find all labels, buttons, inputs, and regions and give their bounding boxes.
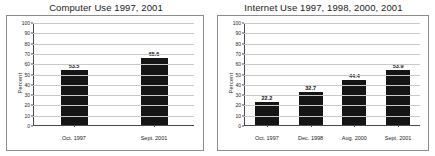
x-tick-label: Oct. 1997 (245, 135, 289, 141)
y-tick-mark (31, 115, 33, 116)
y-tick-label: 0 (238, 124, 241, 129)
y-tick-label: 90 (24, 31, 30, 36)
y-tick-label: 60 (24, 62, 30, 67)
y-tick-label: 50 (235, 72, 241, 77)
y-tick-label: 10 (24, 113, 30, 118)
y-tick-mark (242, 43, 244, 44)
gridline (244, 44, 420, 45)
gridline (244, 23, 420, 24)
y-tick-mark (242, 115, 244, 116)
gridline (244, 54, 420, 55)
y-tick-label: 20 (24, 103, 30, 108)
gridline (33, 44, 194, 45)
y-tick-label: 80 (24, 41, 30, 46)
y-tick-mark (31, 95, 33, 96)
x-axis-line (244, 125, 420, 126)
gridline (244, 85, 420, 86)
gridline (33, 95, 194, 96)
gridline (33, 64, 194, 65)
y-tick-mark (242, 64, 244, 65)
gridline (33, 54, 194, 55)
y-tick-label: 100 (233, 21, 241, 26)
x-tick-mark (267, 125, 268, 127)
gridline (33, 85, 194, 86)
y-tick-mark (242, 23, 244, 24)
y-tick-mark (31, 23, 33, 24)
x-tick-label: Dec. 1998 (289, 135, 333, 141)
gridline (33, 23, 194, 24)
gridline (244, 64, 420, 65)
y-axis-label-internet-use: Percent (228, 72, 234, 93)
plot-frame-computer-use: Percent 53.565.6 1009080706050403020100 … (6, 15, 204, 151)
y-tick-label: 80 (235, 41, 241, 46)
y-tick-label: 60 (235, 62, 241, 67)
axes-computer-use: 53.565.6 1009080706050403020100 (33, 23, 194, 126)
bar: 53.9 (386, 70, 410, 125)
y-tick-mark (242, 33, 244, 34)
y-tick-label: 40 (235, 82, 241, 87)
axes-internet-use: 22.232.744.453.9 1009080706050403020100 (244, 23, 420, 126)
chart-title-computer-use: Computer Use 1997, 2001 (0, 0, 212, 13)
x-axis-line (33, 125, 194, 126)
y-tick-label: 50 (24, 72, 30, 77)
y-axis-label-computer-use: Percent (17, 72, 23, 93)
x-tick-mark (74, 125, 75, 127)
y-tick-label: 40 (24, 82, 30, 87)
gridline (33, 105, 194, 106)
y-tick-mark (242, 74, 244, 75)
x-tick-label: Sept. 2001 (376, 135, 420, 141)
y-tick-label: 20 (235, 103, 241, 108)
y-tick-label: 10 (235, 113, 241, 118)
chart-pair-figure: Computer Use 1997, 2001 Percent 53.565.6… (0, 0, 435, 156)
x-axis-labels-internet-use: Oct. 1997Dec. 1998Aug. 2000Sept. 2001 (245, 135, 420, 141)
plot-area-internet-use: Percent 22.232.744.453.9 100908070605040… (218, 16, 428, 150)
plot-frame-internet-use: Percent 22.232.744.453.9 100908070605040… (217, 15, 429, 151)
x-tick-mark (354, 125, 355, 127)
x-tick-label: Aug. 2000 (333, 135, 377, 141)
bar: 44.4 (342, 80, 366, 125)
y-tick-mark (31, 74, 33, 75)
y-tick-label: 70 (235, 51, 241, 56)
gridline (33, 75, 194, 76)
x-tick-label: Oct. 1997 (34, 135, 114, 141)
y-tick-mark (242, 105, 244, 106)
y-tick-mark (31, 43, 33, 44)
y-tick-mark (242, 53, 244, 54)
x-axis-labels-computer-use: Oct. 1997Sept. 2001 (34, 135, 194, 141)
gridline (33, 33, 194, 34)
bar-value-label: 22.2 (262, 95, 273, 101)
y-tick-mark (242, 95, 244, 96)
y-tick-label: 30 (235, 93, 241, 98)
gridline (244, 33, 420, 34)
x-tick-mark (154, 125, 155, 127)
bar: 32.7 (299, 92, 323, 125)
gridline (244, 95, 420, 96)
y-tick-mark (31, 33, 33, 34)
x-tick-mark (398, 125, 399, 127)
y-tick-label: 90 (235, 31, 241, 36)
computer-use-panel: Computer Use 1997, 2001 Percent 53.565.6… (0, 0, 212, 156)
y-tick-label: 30 (24, 93, 30, 98)
y-tick-mark (31, 105, 33, 106)
y-tick-label: 70 (24, 51, 30, 56)
y-tick-mark (242, 84, 244, 85)
plot-area-computer-use: Percent 53.565.6 1009080706050403020100 … (7, 16, 203, 150)
internet-use-panel: Internet Use 1997, 1998, 2000, 2001 Perc… (212, 0, 435, 156)
y-tick-label: 100 (22, 21, 30, 26)
x-tick-label: Sept. 2001 (114, 135, 194, 141)
y-tick-mark (31, 64, 33, 65)
bar: 53.5 (61, 70, 88, 125)
gridline (244, 75, 420, 76)
gridline (33, 116, 194, 117)
chart-title-internet-use: Internet Use 1997, 1998, 2000, 2001 (212, 0, 435, 13)
gridline (244, 105, 420, 106)
x-tick-mark (311, 125, 312, 127)
y-tick-label: 0 (27, 124, 30, 129)
y-tick-mark (31, 84, 33, 85)
y-tick-mark (31, 53, 33, 54)
y-tick-mark (242, 126, 244, 127)
gridline (244, 116, 420, 117)
y-tick-mark (31, 126, 33, 127)
